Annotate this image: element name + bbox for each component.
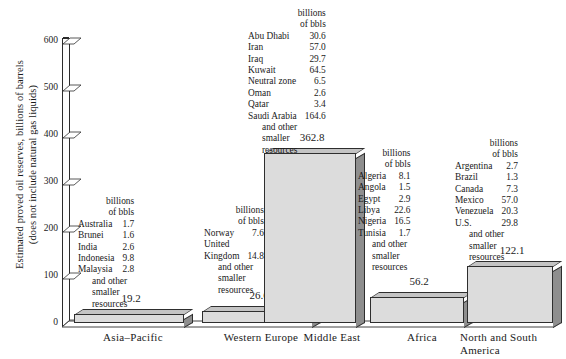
breakdown-table: Algeria 8.1 Angola 1.5 Egypt 2.9 Libya 2… (358, 171, 411, 239)
y-axis-tick-600: 600 (62, 37, 82, 45)
country-value: 2.6 (305, 88, 326, 99)
country-name: United Kingdom (204, 239, 247, 262)
table-row: Mexico 57.0 (455, 195, 518, 206)
breakdown-table: Norway 7.6 United Kingdom 14.8 (204, 228, 264, 262)
table-row: Libya 22.6 (358, 205, 411, 216)
country-name: Tunisia (358, 228, 394, 239)
country-value: 1.6 (122, 230, 134, 241)
bar-front-face (467, 266, 553, 323)
country-name: Abu Dhabi (248, 31, 305, 42)
country-name: Algeria (358, 171, 394, 182)
breakdown-table: Abu Dhabi 30.6 Iran 57.0 Iraq 29.7 Kuwai… (248, 31, 326, 122)
country-value: 20.3 (502, 206, 518, 217)
table-row: Iraq 29.7 (248, 54, 326, 65)
country-value: 2.8 (122, 264, 134, 275)
country-name: Qatar (248, 99, 305, 110)
bar-chart: Estimated proved oil reserves, billions … (0, 0, 566, 359)
country-value: 29.7 (305, 54, 326, 65)
bar-front-face (370, 297, 464, 323)
other-resources-note: and other smaller resources (358, 239, 411, 273)
country-value: 64.5 (305, 65, 326, 76)
table-row: Neutral zone 6.5 (248, 76, 326, 87)
table-row: Venezuela 20.3 (455, 206, 518, 217)
country-name: Oman (248, 88, 305, 99)
country-name: Kuwait (248, 65, 305, 76)
table-row: Algeria 8.1 (358, 171, 411, 182)
breakdown-africa: billions of bbls Algeria 8.1 Angola 1.5 … (358, 148, 411, 273)
country-value: 2.7 (502, 161, 518, 172)
table-row: Canada 7.3 (455, 184, 518, 195)
country-name: Malaysia (78, 264, 122, 275)
country-value: 164.6 (305, 111, 326, 122)
country-name: Mexico (455, 195, 502, 206)
country-value: 1.7 (122, 219, 134, 230)
table-row: Abu Dhabi 30.6 (248, 31, 326, 42)
country-name: Libya (358, 205, 394, 216)
y-axis-tick-label-600: 600 (44, 35, 58, 45)
country-name: Canada (455, 184, 502, 195)
country-name: U.S. (455, 218, 502, 229)
table-row: Qatar 3.4 (248, 99, 326, 110)
category-label-north-and-south-america: North and South America (460, 331, 566, 357)
units-header: billions of bbls (358, 148, 411, 171)
country-value: 8.1 (394, 171, 410, 182)
y-axis-title: Estimated proved oil reserves, billions … (14, 15, 39, 315)
bar-side-face (553, 266, 562, 328)
country-value: 14.8 (247, 239, 263, 262)
table-row: Australia 1.7 (78, 219, 134, 230)
country-name: Argentina (455, 161, 502, 172)
country-value: 30.6 (305, 31, 326, 42)
table-row: Iran 57.0 (248, 42, 326, 53)
table-row: Brunei 1.6 (78, 230, 134, 241)
country-value: 1.7 (394, 228, 410, 239)
tick-plate-icon (62, 178, 82, 186)
other-resources-note: and other smaller resources (248, 122, 326, 156)
bar-middle-east: 362.8 (264, 153, 356, 323)
country-name: Egypt (358, 194, 394, 205)
units-header: billions of bbls (204, 205, 264, 228)
breakdown-table: Argentina 2.7 Brazil 1.3 Canada 7.3 Mexi… (455, 161, 518, 229)
country-name: Iraq (248, 54, 305, 65)
breakdown-asia-pacific: billions of bbls Australia 1.7 Brunei 1.… (78, 196, 134, 310)
y-axis-tick-label-0: 0 (53, 317, 58, 327)
tick-plate-icon (62, 131, 82, 139)
country-value: 7.6 (247, 228, 263, 239)
table-row: Oman 2.6 (248, 88, 326, 99)
country-value: 16.5 (394, 216, 410, 227)
table-row: Malaysia 2.8 (78, 264, 134, 275)
y-axis-tick-label-500: 500 (44, 82, 58, 92)
units-header: billions of bbls (78, 196, 134, 219)
table-row: Saudi Arabia 164.6 (248, 111, 326, 122)
country-name: Saudi Arabia (248, 111, 305, 122)
country-name: Neutral zone (248, 76, 305, 87)
units-header: billions of bbls (455, 138, 518, 161)
country-name: Angola (358, 182, 394, 193)
category-label-asia-pacific: Asia–Pacific (74, 331, 192, 344)
y-axis-tick-500: 500 (62, 84, 82, 92)
country-name: Norway (204, 228, 247, 239)
tick-plate-icon (62, 37, 82, 45)
country-name: Brunei (78, 230, 122, 241)
table-row: Nigeria 16.5 (358, 216, 411, 227)
table-row: Egypt 2.9 (358, 194, 411, 205)
bar-value-label-africa: 56.2 (372, 275, 466, 287)
y-axis-tick-label-400: 400 (44, 129, 58, 139)
country-name: Nigeria (358, 216, 394, 227)
country-value: 1.3 (502, 172, 518, 183)
country-value: 1.5 (394, 182, 410, 193)
country-value: 7.3 (502, 184, 518, 195)
table-row: United Kingdom 14.8 (204, 239, 264, 262)
country-value: 3.4 (305, 99, 326, 110)
country-name: Indonesia (78, 253, 122, 264)
table-row: Norway 7.6 (204, 228, 264, 239)
table-row: Argentina 2.7 (455, 161, 518, 172)
breakdown-north-and-south-america: billions of bbls Argentina 2.7 Brazil 1.… (455, 138, 518, 263)
y-axis-tick-300: 300 (62, 178, 82, 186)
bar-asia-pacific: 19.2 (74, 314, 184, 323)
country-value: 9.8 (122, 253, 134, 264)
bar-north-and-south-america: 122.1 (467, 266, 553, 323)
table-row: U.S. 29.8 (455, 218, 518, 229)
category-label-africa: Africa (370, 331, 474, 344)
country-name: Venezuela (455, 206, 502, 217)
table-row: India 2.6 (78, 242, 134, 253)
